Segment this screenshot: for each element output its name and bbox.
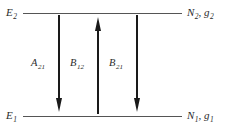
coefficient-label-b12: B12 (70, 58, 84, 69)
coefficient-symbol-b12: B (70, 57, 76, 68)
energy-level-diagram: E2 N2, g2 E1 N1, g1 A21 B12 B21 (0, 0, 227, 133)
upper-level-degeneracy-subscript: 2 (210, 12, 214, 21)
upper-level-population-subscript: 2 (195, 12, 199, 21)
upper-level-energy-label: E2 (6, 7, 17, 18)
arrow-head-down-icon (134, 98, 140, 112)
lower-level-degeneracy-subscript: 1 (210, 115, 214, 124)
upper-level-population-symbol: N (187, 6, 194, 18)
arrow-head-up-icon (95, 17, 101, 31)
lower-level-population-subscript: 1 (195, 115, 199, 124)
lower-level-energy-symbol: E (6, 109, 13, 121)
lower-level-degeneracy-symbol: , g (198, 109, 209, 121)
upper-level-energy-subscript: 2 (13, 12, 17, 21)
coefficient-symbol-b21: B (109, 57, 115, 68)
stimulated-emission-arrow-down (130, 13, 144, 116)
lower-level-population-symbol: N (187, 109, 194, 121)
coefficient-subscript-a21: 21 (38, 63, 45, 71)
coefficient-subscript-b12: 12 (77, 63, 84, 71)
upper-level-population-label: N2, g2 (187, 7, 214, 18)
arrow-head-down-icon (56, 98, 62, 112)
coefficient-label-b21: B21 (109, 58, 123, 69)
lower-level-energy-subscript: 1 (13, 115, 17, 124)
coefficient-label-a21: A21 (31, 58, 45, 69)
lower-level-population-label: N1, g1 (187, 110, 214, 121)
coefficient-symbol-a21: A (31, 57, 37, 68)
upper-level-energy-symbol: E (6, 6, 13, 18)
lower-energy-level-line (23, 116, 182, 117)
upper-level-degeneracy-symbol: , g (198, 6, 209, 18)
coefficient-subscript-b21: 21 (116, 63, 123, 71)
spontaneous-emission-arrow-down (52, 13, 66, 116)
stimulated-absorption-arrow-up (91, 13, 105, 116)
lower-level-energy-label: E1 (6, 110, 17, 121)
